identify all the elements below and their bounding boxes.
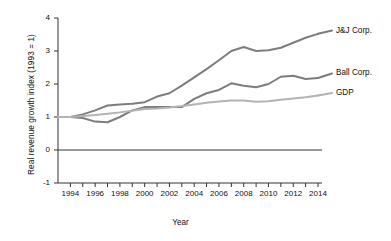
y-axis-tick-label: 0 (28, 145, 50, 154)
y-axis-tick-label: 4 (28, 13, 50, 22)
x-axis-title-text: Year (172, 218, 189, 227)
y-axis-tick-label: 3 (28, 46, 50, 55)
x-axis-tick-label: 2014 (300, 189, 336, 198)
series-label-gdp: GDP (336, 88, 354, 97)
y-axis-tick-label: -1 (28, 178, 50, 187)
series-leader-line (318, 73, 332, 78)
x-axis-title: Year (0, 218, 391, 227)
series-label-ball-corp: Ball Corp. (336, 68, 372, 77)
series-label-j-j-corp: J&J Corp. (336, 26, 372, 35)
series-leader-line (318, 31, 332, 34)
series-line-gdp (58, 96, 318, 117)
line-chart-plot (0, 0, 391, 241)
y-axis-tick-label: 1 (28, 112, 50, 121)
chart-container: Real revenue growth index (1993 = 1) Yea… (0, 0, 391, 241)
y-axis-title: Real revenue growth index (1993 = 1) (27, 20, 36, 190)
series-leader-line (318, 93, 332, 96)
y-axis-tick-label: 2 (28, 79, 50, 88)
